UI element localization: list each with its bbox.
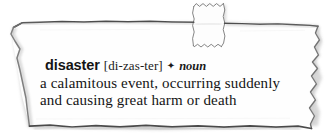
dictionary-entry-text: disaster[di-zas-ter]✦noun a calamitous e… (0, 0, 333, 135)
definition-line-1: a calamitous event, occurring suddenly (40, 76, 280, 91)
dictionary-clipping: disaster[di-zas-ter]✦noun a calamitous e… (0, 0, 333, 135)
headword-line: disaster[di-zas-ter]✦noun (45, 57, 206, 73)
pronunciation: [di-zas-ter] (104, 58, 163, 73)
definition-line-2: and causing great harm or death (40, 93, 237, 108)
part-of-speech: noun (179, 59, 206, 73)
diamond-bullet-icon: ✦ (167, 60, 175, 71)
headword: disaster (45, 57, 100, 73)
